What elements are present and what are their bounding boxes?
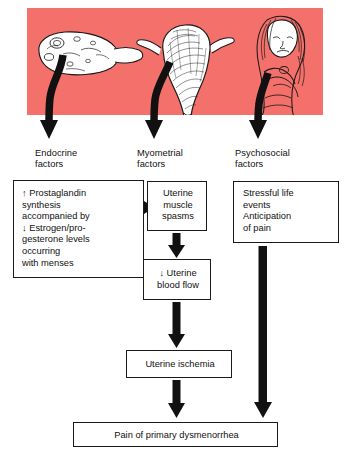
box-myometrial-text: Uterine muscle spasms [148,188,208,223]
box-endocrine-text: ↑ Prostaglandin synthesis accompanied by… [22,188,144,269]
box-uterine-blood-flow: ↓ Uterine blood flow [143,259,211,300]
column-heading-myometrial: Myometrial factors [137,148,227,171]
column-heading-endocrine: Endocrine factors [35,148,145,171]
box-psychosocial-factors: Stressful life events Anticipation of pa… [233,181,339,243]
box-blood-flow-text: ↓ Uterine blood flow [144,268,212,291]
arrow-bloodflow-to-ischemia [168,302,185,348]
box-uterine-muscle-spasms: Uterine muscle spasms [147,181,207,231]
arrow-psychosocial-to-pain [254,246,272,418]
illustration-band [27,8,323,115]
arrow-myometrial-to-bloodflow [168,233,185,258]
box-psychosocial-text: Stressful life events Anticipation of pa… [243,188,339,234]
box-ischemia-text: Uterine ischemia [127,359,233,371]
box-pain-text: Pain of primary dysmenorrhea [74,430,279,442]
dysmenorrhea-flowchart: Endocrine factors Myometrial factors Psy… [0,0,350,454]
column-heading-psychosocial: Psychosocial factors [235,148,340,171]
box-pain-of-primary-dysmenorrhea: Pain of primary dysmenorrhea [73,422,278,447]
box-endocrine-factors: ↑ Prostaglandin synthesis accompanied by… [13,180,144,278]
arrow-ischemia-to-pain [168,380,185,418]
box-uterine-ischemia: Uterine ischemia [126,350,232,378]
